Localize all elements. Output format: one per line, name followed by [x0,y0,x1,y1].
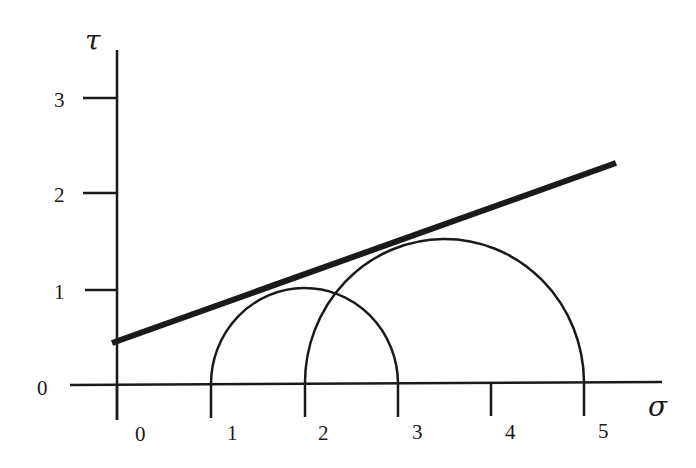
mohr-diagram: 3 2 1 0 0 1 2 3 4 5 τ σ [0,0,696,468]
y-tick-label-3: 3 [54,88,65,112]
x-tick-label-5: 5 [598,419,609,443]
y-tick-label-0: 0 [37,376,48,400]
x-tick-label-1: 1 [227,421,238,445]
y-tick-label-2: 2 [54,183,65,207]
y-axis-label-tau: τ [85,24,101,57]
x-tick-label-2: 2 [318,421,329,445]
x-axis-label-sigma: σ [648,390,668,423]
failure-envelope-line [112,163,616,343]
x-tick-label-4: 4 [505,420,516,444]
x-tick-label-3: 3 [412,420,423,444]
x-axis [70,382,662,385]
y-tick-label-1: 1 [54,280,65,304]
x-tick-label-0: 0 [135,422,146,446]
